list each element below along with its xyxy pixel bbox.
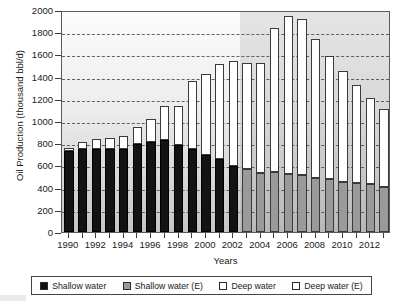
- segment-deep-water-estimated: [242, 63, 251, 169]
- x-axis-tick: [123, 233, 124, 238]
- x-axis-tick: [136, 233, 137, 238]
- segment-shallow-water-estimated: [284, 174, 293, 232]
- segment-deep-water: [105, 138, 114, 149]
- x-axis-tick: [328, 233, 329, 238]
- segment-shallow-water: [229, 166, 238, 232]
- bar-1997: [160, 106, 169, 232]
- x-axis-tick: [369, 233, 370, 238]
- y-axis-tick-label: 800: [37, 138, 53, 149]
- legend-item-0[interactable]: Shallow water: [40, 281, 106, 291]
- x-axis-title: Years: [61, 255, 390, 266]
- bar-2010: [338, 71, 347, 232]
- legend-label: Shallow water: [52, 281, 106, 291]
- legend-swatch-icon: [40, 282, 48, 290]
- bar-2007: [297, 19, 306, 232]
- bar-1993: [105, 138, 114, 232]
- legend-label: Deep water: [231, 281, 275, 291]
- segment-deep-water-estimated: [284, 16, 293, 174]
- bar-1999: [188, 81, 197, 232]
- x-axis-tick-label: 2002: [222, 239, 243, 250]
- scan-artifact: [0, 295, 26, 301]
- bar-1995: [133, 127, 142, 232]
- bar-2000: [201, 74, 210, 232]
- segment-deep-water-estimated: [270, 28, 279, 171]
- x-axis-tick-label: 2006: [277, 239, 298, 250]
- y-axis-tick-label: 1400: [32, 72, 53, 83]
- segment-deep-water: [133, 127, 142, 144]
- legend-item-1[interactable]: Shallow water (E): [123, 281, 203, 291]
- x-axis-tick: [219, 233, 220, 238]
- x-axis-tick: [164, 233, 165, 238]
- segment-deep-water-estimated: [338, 71, 347, 181]
- x-axis-tick: [315, 233, 316, 238]
- chart-figure: Oil Production (thousand bbl/d) 02004006…: [0, 0, 403, 301]
- segment-shallow-water: [215, 159, 224, 232]
- segment-shallow-water: [92, 149, 101, 232]
- bar-2005: [270, 28, 279, 232]
- segment-shallow-water-estimated: [311, 178, 320, 232]
- x-axis-tick-label: 2012: [359, 239, 380, 250]
- y-axis-tick-label: 2000: [32, 5, 53, 16]
- bar-2006: [284, 16, 293, 232]
- chart-legend: Shallow waterShallow water (E)Deep water…: [31, 276, 372, 295]
- x-axis-tick: [178, 233, 179, 238]
- segment-deep-water: [174, 106, 183, 145]
- x-axis-tick-label: 2008: [304, 239, 325, 250]
- legend-item-3[interactable]: Deep water (E): [292, 281, 362, 291]
- segment-shallow-water: [64, 151, 73, 232]
- segment-shallow-water-estimated: [366, 184, 375, 232]
- segment-deep-water: [160, 106, 169, 140]
- x-axis-tick: [273, 233, 274, 238]
- x-axis-tick: [287, 233, 288, 238]
- bar-2011: [352, 85, 361, 232]
- y-axis-tick-label: 1200: [32, 94, 53, 105]
- segment-shallow-water-estimated: [325, 179, 334, 232]
- x-axis-tick-label: 1992: [85, 239, 106, 250]
- bar-2001: [215, 64, 224, 232]
- bar-2004: [256, 63, 265, 232]
- x-axis-tick: [82, 233, 83, 238]
- segment-shallow-water: [146, 142, 155, 232]
- y-axis-tick-label: 1800: [32, 27, 53, 38]
- segment-deep-water-estimated: [379, 109, 388, 186]
- x-axis-tick: [246, 233, 247, 238]
- bar-1996: [146, 119, 155, 232]
- segment-shallow-water-estimated: [379, 187, 388, 233]
- legend-item-2[interactable]: Deep water: [219, 281, 275, 291]
- segment-deep-water: [119, 136, 128, 149]
- legend-label: Deep water (E): [304, 281, 362, 291]
- segment-deep-water: [78, 142, 87, 149]
- segment-deep-water-estimated: [325, 56, 334, 180]
- bar-1991: [78, 142, 87, 232]
- x-axis-tick-label: 1998: [167, 239, 188, 250]
- plot-area: [61, 11, 390, 233]
- segment-shallow-water: [78, 149, 87, 232]
- bar-1994: [119, 136, 128, 232]
- x-axis-tick: [109, 233, 110, 238]
- x-axis-tick-label: 2000: [194, 239, 215, 250]
- segment-shallow-water: [188, 149, 197, 232]
- segment-deep-water: [215, 64, 224, 158]
- bar-2013: [379, 109, 388, 232]
- bar-1998: [174, 106, 183, 232]
- x-axis-tick-label: 1990: [57, 239, 78, 250]
- segment-shallow-water: [160, 140, 169, 232]
- x-axis-tick: [205, 233, 206, 238]
- y-axis-tick-label: 400: [37, 183, 53, 194]
- y-axis-tick-label: 1000: [32, 116, 53, 127]
- x-axis-tick: [191, 233, 192, 238]
- legend-swatch-icon: [123, 282, 131, 290]
- bar-2009: [325, 56, 334, 232]
- x-axis-tick: [356, 233, 357, 238]
- segment-deep-water: [229, 61, 238, 166]
- segment-deep-water: [92, 139, 101, 150]
- x-axis-tick: [95, 233, 96, 238]
- segment-shallow-water: [201, 155, 210, 232]
- y-axis-tick-label: 200: [37, 205, 53, 216]
- segment-deep-water-estimated: [297, 19, 306, 175]
- bar-2012: [366, 98, 375, 232]
- segment-shallow-water: [119, 149, 128, 232]
- bar-1990: [64, 148, 73, 232]
- segment-shallow-water: [174, 145, 183, 232]
- segment-shallow-water-estimated: [270, 172, 279, 232]
